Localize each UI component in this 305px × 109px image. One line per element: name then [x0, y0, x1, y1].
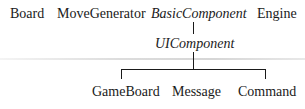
class-message: Message	[172, 84, 221, 100]
class-board: Board	[10, 6, 44, 22]
inheritance-bar	[121, 69, 266, 70]
inheritance-line-ui-trunk	[193, 52, 194, 70]
class-move-generator: MoveGenerator	[57, 6, 146, 22]
inheritance-leg-gameboard	[121, 69, 122, 79]
class-gameboard: GameBoard	[92, 84, 160, 100]
class-command: Command	[238, 84, 296, 100]
horizontal-divider	[0, 58, 305, 60]
inheritance-leg-command	[265, 69, 266, 79]
class-basic-component: BasicComponent	[151, 6, 247, 22]
class-ui-component: UIComponent	[155, 36, 234, 52]
class-engine: Engine	[257, 6, 297, 22]
inheritance-line-basic-ui	[193, 22, 194, 34]
